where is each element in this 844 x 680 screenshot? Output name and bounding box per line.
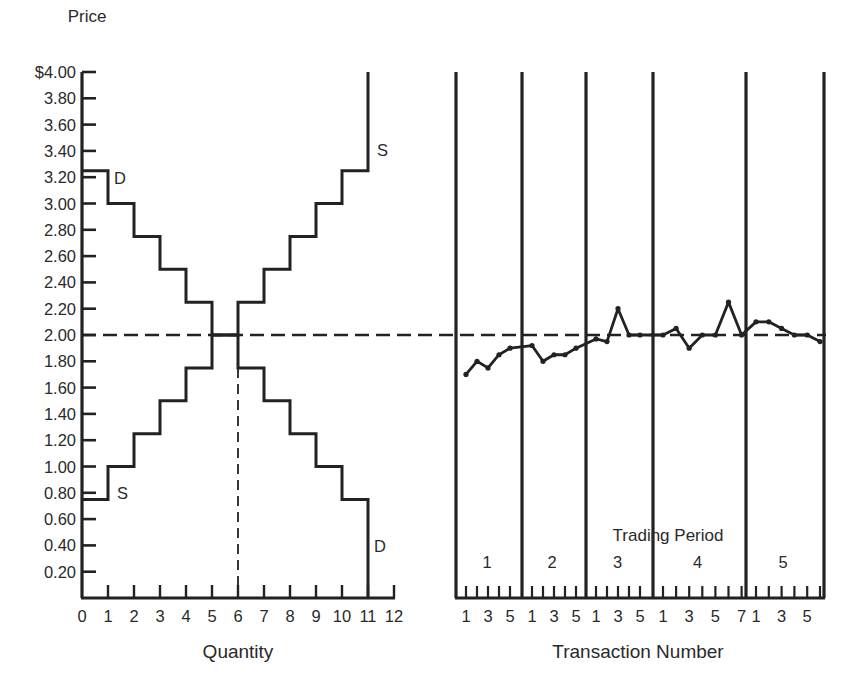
transaction-point (739, 332, 744, 337)
transaction-point (463, 372, 468, 377)
transaction-point (551, 352, 556, 357)
transaction-point (713, 332, 718, 337)
x-tick-label: 12 (385, 607, 403, 625)
transaction-point (637, 332, 642, 337)
x-tick-label: 6 (233, 607, 242, 625)
transaction-price-line (466, 302, 820, 374)
demand-label-top: D (114, 169, 126, 187)
x-tick-label: 2 (129, 607, 138, 625)
transaction-tick-label: 1 (658, 607, 667, 625)
supply-curve (82, 72, 368, 499)
transaction-point (753, 319, 758, 324)
transaction-tick-label: 1 (591, 607, 600, 625)
transaction-point (817, 339, 822, 344)
transaction-tick-label: 3 (685, 607, 694, 625)
transaction-tick-label: 3 (483, 607, 492, 625)
y-tick-label: 2.00 (44, 326, 76, 344)
x-tick-label: 3 (155, 607, 164, 625)
y-tick-label: 3.20 (44, 168, 76, 186)
transaction-tick-label: 1 (751, 607, 760, 625)
transaction-point (779, 326, 784, 331)
transaction-point (562, 352, 567, 357)
y-tick-label: 2.60 (44, 247, 76, 265)
transaction-tick-label: 7 (737, 607, 746, 625)
transaction-point (474, 359, 479, 364)
x-tick-label: 11 (359, 607, 376, 625)
y-tick-label: 3.00 (44, 195, 76, 213)
x-tick-label: 1 (103, 607, 112, 625)
transaction-point (573, 346, 578, 351)
transaction-tick-label: 1 (527, 607, 536, 625)
y-tick-label: 1.40 (44, 405, 76, 423)
y-tick-label: 2.80 (44, 221, 76, 239)
transaction-point (660, 332, 665, 337)
y-tick-label: 1.60 (44, 379, 76, 397)
y-tick-label: $4.00 (35, 63, 76, 81)
transaction-point (604, 339, 609, 344)
transaction-tick-label: 5 (711, 607, 720, 625)
transaction-tick-label: 5 (571, 607, 580, 625)
y-tick-label: 0.60 (44, 510, 76, 528)
transaction-tick-label: 3 (613, 607, 622, 625)
x-tick-label: 0 (77, 607, 86, 625)
y-axis-title: Price (68, 7, 107, 26)
supply-label-top: S (377, 141, 388, 159)
x-axis-title-transaction: Transaction Number (552, 641, 724, 662)
transaction-point (626, 332, 631, 337)
demand-label-bottom: D (374, 537, 386, 555)
period-number-label: 3 (613, 553, 622, 571)
y-tick-label: 0.80 (44, 484, 76, 502)
transaction-point (485, 365, 490, 370)
y-tick-label: 3.40 (44, 142, 76, 160)
y-tick-label: 3.60 (44, 116, 76, 134)
transaction-point (529, 343, 534, 348)
y-tick-label: 3.80 (44, 89, 76, 107)
trading-period-label: Trading Period (613, 526, 724, 545)
transaction-point (792, 332, 797, 337)
y-tick-label: 2.40 (44, 273, 76, 291)
y-tick-label: 1.80 (44, 352, 76, 370)
x-tick-label: 5 (207, 607, 216, 625)
x-tick-label: 4 (181, 607, 190, 625)
transaction-point (496, 352, 501, 357)
transaction-tick-label: 1 (461, 607, 470, 625)
transaction-point (700, 332, 705, 337)
transaction-point (615, 306, 620, 311)
period-number-label: 1 (482, 553, 491, 571)
x-tick-label: 7 (259, 607, 268, 625)
transaction-point (805, 332, 810, 337)
x-tick-label: 9 (311, 607, 320, 625)
transaction-point (593, 336, 598, 341)
y-tick-label: 1.00 (44, 458, 76, 476)
transaction-tick-label: 5 (803, 607, 812, 625)
y-tick-label: 0.40 (44, 536, 76, 554)
transaction-tick-label: 5 (505, 607, 514, 625)
x-axis-title-quantity: Quantity (203, 641, 274, 662)
demand-curve (82, 171, 368, 598)
transaction-tick-label: 5 (635, 607, 644, 625)
transaction-point (674, 326, 679, 331)
transaction-point (687, 346, 692, 351)
transaction-point (540, 359, 545, 364)
supply-label-bottom: S (117, 484, 128, 502)
period-number-label: 5 (778, 553, 787, 571)
y-tick-label: 2.20 (44, 300, 76, 318)
x-tick-label: 10 (333, 607, 351, 625)
y-tick-label: 0.20 (44, 563, 76, 581)
x-tick-label: 8 (285, 607, 294, 625)
period-number-label: 4 (693, 553, 702, 571)
y-tick-label: 1.20 (44, 431, 76, 449)
transaction-point (507, 346, 512, 351)
chart-canvas: $4.003.803.603.403.203.002.802.602.402.2… (0, 0, 844, 680)
transaction-tick-label: 3 (777, 607, 786, 625)
transaction-point (766, 319, 771, 324)
transaction-point (726, 300, 731, 305)
transaction-tick-label: 3 (549, 607, 558, 625)
period-number-label: 2 (547, 553, 556, 571)
